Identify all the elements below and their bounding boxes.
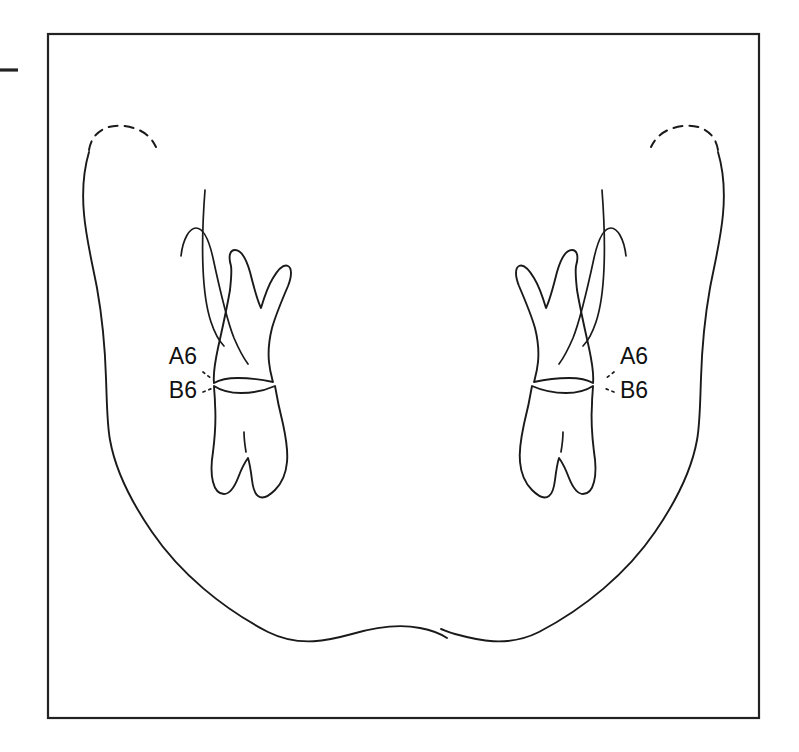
label-right-lower-molar: B6 xyxy=(620,377,648,403)
figure-frame xyxy=(48,34,759,718)
right-lower-molar-B6 xyxy=(520,386,596,497)
label-left-lower-molar: B6 xyxy=(169,377,197,403)
left-condyle-dashed-arc xyxy=(89,126,156,150)
right-coronoid-process xyxy=(559,228,626,364)
right-lower-molar-root-groove xyxy=(561,432,563,452)
label-right-upper-molar: A6 xyxy=(620,343,648,369)
left-ramus-posterior-and-lower-border xyxy=(83,152,447,641)
label-left-upper-molar: A6 xyxy=(169,343,197,369)
left-lower-label-leader xyxy=(203,388,213,392)
right-ramus-anterior-border xyxy=(583,190,604,346)
left-ramus-anterior-border xyxy=(203,190,224,346)
right-condyle-dashed-arc xyxy=(651,126,718,150)
left-upper-molar-A6 xyxy=(214,250,291,383)
left-lower-molar-root-groove xyxy=(244,432,246,452)
right-upper-label-leader xyxy=(605,372,614,379)
mandible-diagram-canvas: A6 B6 A6 B6 xyxy=(0,0,799,752)
left-upper-label-leader xyxy=(203,372,212,379)
left-lower-molar-B6 xyxy=(212,386,288,497)
right-ramus-posterior-and-lower-border xyxy=(441,152,724,641)
figure-root: A6 B6 A6 B6 xyxy=(0,0,799,752)
right-upper-molar-A6 xyxy=(516,250,593,383)
right-lower-label-leader xyxy=(604,388,614,392)
